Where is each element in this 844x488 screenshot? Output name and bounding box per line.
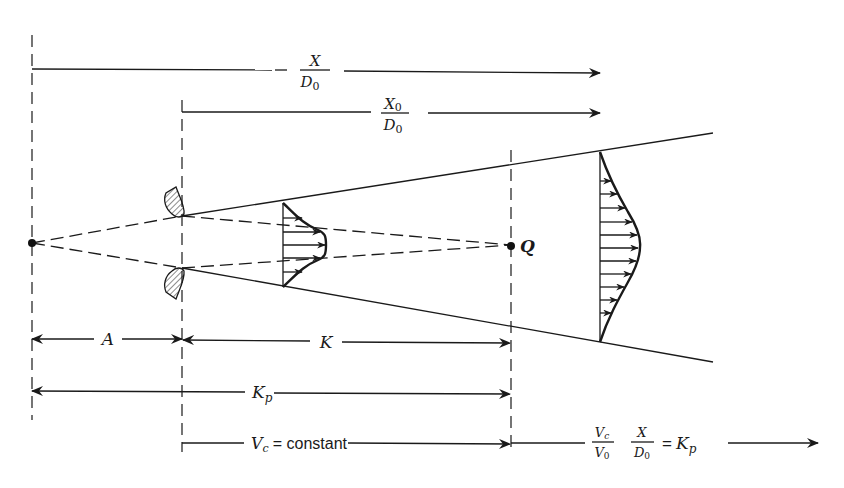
x0-over-d0-dimension: X0 D0 [182, 95, 600, 136]
dimension-k-label: K [319, 332, 334, 352]
x-numerator: X [309, 52, 322, 70]
core-velocity-profile [283, 203, 326, 287]
x0-numerator: X0 [383, 95, 402, 114]
decay-region-annotation: Vc V0 X D0 =Kp [511, 425, 818, 461]
virtual-origin-lower-ray [32, 243, 182, 268]
jet-diagram: X D0 X0 D0 Q [0, 0, 844, 488]
jet-upper-boundary [182, 133, 713, 216]
x-numerator-bottom: X [636, 425, 647, 440]
point-q-label: Q [520, 236, 535, 256]
virtual-origin-point [28, 239, 36, 247]
kp-equation-rhs: =Kp [662, 433, 697, 456]
dimension-a-label: A [100, 329, 114, 349]
core-lower-boundary [182, 245, 511, 268]
core-region-annotation: Vc= constant [182, 434, 510, 455]
dimension-kp-label: Kp [251, 382, 273, 405]
core-upper-boundary [182, 216, 511, 245]
nozzle-upper-lip [165, 187, 184, 217]
x0-denominator: D0 [382, 116, 402, 136]
point-q [507, 242, 515, 250]
dimension-k: K [183, 332, 510, 352]
jet-lower-boundary [182, 268, 713, 362]
nozzle-lower-lip [165, 268, 184, 299]
core-region-label: Vc= constant [251, 434, 348, 455]
virtual-origin-upper-ray [32, 216, 182, 243]
v0-denominator: V0 [594, 445, 609, 461]
dimension-kp: Kp [32, 382, 510, 405]
d0-denominator-bottom: D0 [633, 445, 650, 461]
developed-velocity-profile [600, 152, 640, 342]
x-denominator: D0 [299, 73, 319, 93]
vc-numerator: Vc [595, 425, 609, 441]
x-over-d0-dimension: X D0 [32, 52, 600, 93]
dimension-a: A [32, 329, 182, 349]
